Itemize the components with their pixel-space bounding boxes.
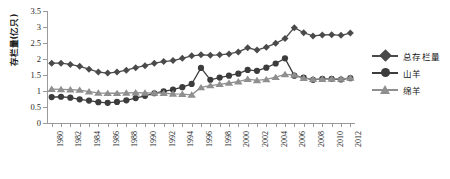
x-tick <box>61 123 62 127</box>
x-tick <box>80 123 81 127</box>
x-tick <box>192 123 193 127</box>
legend-item-sheep[interactable]: 绵羊 <box>372 81 440 98</box>
x-tick <box>89 123 90 127</box>
plot-area: 00.511.522.533.5 19801982198419861988199… <box>47 11 355 123</box>
x-tick-label: 2006 <box>298 131 307 147</box>
x-tick-label: 2008 <box>317 131 326 147</box>
legend-marker-diamond-icon <box>372 50 398 61</box>
y-tick-label: 1.5 <box>30 70 41 80</box>
x-tick <box>126 123 127 127</box>
legend-marker-circle-icon <box>372 67 398 78</box>
x-tick <box>313 123 314 127</box>
y-tick-label: 2 <box>37 54 41 64</box>
x-tick <box>238 123 239 127</box>
legend-label-total: 总存栏量 <box>403 50 440 62</box>
x-tick <box>145 123 146 127</box>
x-tick-label: 2002 <box>261 131 270 147</box>
x-tick <box>294 123 295 127</box>
y-tick-label: 2.5 <box>30 38 41 48</box>
series-lines <box>47 11 355 123</box>
x-tick-label: 2012 <box>354 131 363 147</box>
x-tick <box>229 123 230 127</box>
x-tick <box>276 123 277 127</box>
x-tick <box>108 123 109 127</box>
x-tick <box>117 123 118 127</box>
x-tick-label: 2010 <box>336 131 345 147</box>
x-tick-label: 1992 <box>168 131 177 147</box>
x-tick <box>164 123 165 127</box>
x-tick-label: 1984 <box>93 131 102 147</box>
x-tick <box>285 123 286 127</box>
x-tick <box>350 123 351 127</box>
legend-label-sheep: 绵羊 <box>403 84 422 96</box>
x-tick <box>257 123 258 127</box>
x-tick-label: 1988 <box>130 131 139 147</box>
series-circle <box>49 55 354 106</box>
x-tick <box>322 123 323 127</box>
x-tick-label: 2004 <box>280 131 289 147</box>
legend-marker-triangle-icon <box>372 84 398 95</box>
legend-item-goat[interactable]: 山羊 <box>372 64 440 81</box>
x-tick <box>248 123 249 127</box>
y-tick <box>43 123 47 124</box>
legend-label-goat: 山羊 <box>403 67 422 79</box>
x-tick-label: 1986 <box>112 131 121 147</box>
x-tick <box>173 123 174 127</box>
x-tick <box>52 123 53 127</box>
series-triangle <box>47 71 354 98</box>
x-tick <box>341 123 342 127</box>
x-tick-label: 1998 <box>224 131 233 147</box>
x-tick <box>70 123 71 127</box>
legend-item-total[interactable]: 总存栏量 <box>372 47 440 64</box>
x-tick <box>266 123 267 127</box>
x-tick <box>220 123 221 127</box>
y-tick-label: 0.5 <box>30 102 41 112</box>
x-tick <box>154 123 155 127</box>
x-tick <box>98 123 99 127</box>
x-tick-label: 1982 <box>74 131 83 147</box>
y-tick-label: 0 <box>37 118 41 128</box>
chart-legend: 总存栏量 山羊 绵羊 <box>372 47 440 98</box>
x-tick-label: 1990 <box>149 131 158 147</box>
y-tick-label: 1 <box>37 86 41 96</box>
y-axis-title: 存栏量(亿只) <box>6 0 22 86</box>
x-tick <box>304 123 305 127</box>
x-tick <box>210 123 211 127</box>
x-tick <box>332 123 333 127</box>
x-tick-label: 1980 <box>56 131 65 147</box>
x-tick-label: 1996 <box>205 131 214 147</box>
chart-container: 存栏量(亿只) 00.511.522.533.5 198019821984198… <box>0 0 450 179</box>
x-tick <box>182 123 183 127</box>
x-tick <box>136 123 137 127</box>
x-tick-label: 1994 <box>186 131 195 147</box>
y-tick-label: 3.5 <box>30 6 41 16</box>
y-tick-label: 3 <box>37 22 41 32</box>
x-tick-label: 2000 <box>242 131 251 147</box>
x-tick <box>201 123 202 127</box>
